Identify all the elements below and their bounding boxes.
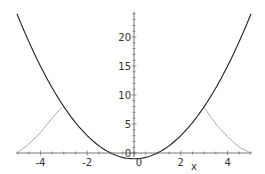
gray-curve-segment bbox=[17, 108, 61, 153]
x-tick-label: 0 bbox=[136, 157, 142, 168]
y-tick-label: 5 bbox=[125, 119, 131, 130]
gray-curve-segment bbox=[204, 108, 251, 153]
x-tick-label: -4 bbox=[35, 157, 45, 168]
y-tick-label: 15 bbox=[118, 61, 131, 72]
y-tick-label: 10 bbox=[118, 90, 131, 101]
x-tick-label: -2 bbox=[82, 157, 92, 168]
x-tick-label: 2 bbox=[178, 157, 184, 168]
axes: -4-202405101520x bbox=[17, 12, 251, 172]
y-tick-label: 20 bbox=[118, 32, 131, 43]
x-axis-label: x bbox=[191, 161, 197, 172]
x-tick-label: 4 bbox=[224, 157, 230, 168]
y-tick-label: 0 bbox=[125, 148, 131, 159]
chart: -4-202405101520x bbox=[0, 0, 265, 174]
